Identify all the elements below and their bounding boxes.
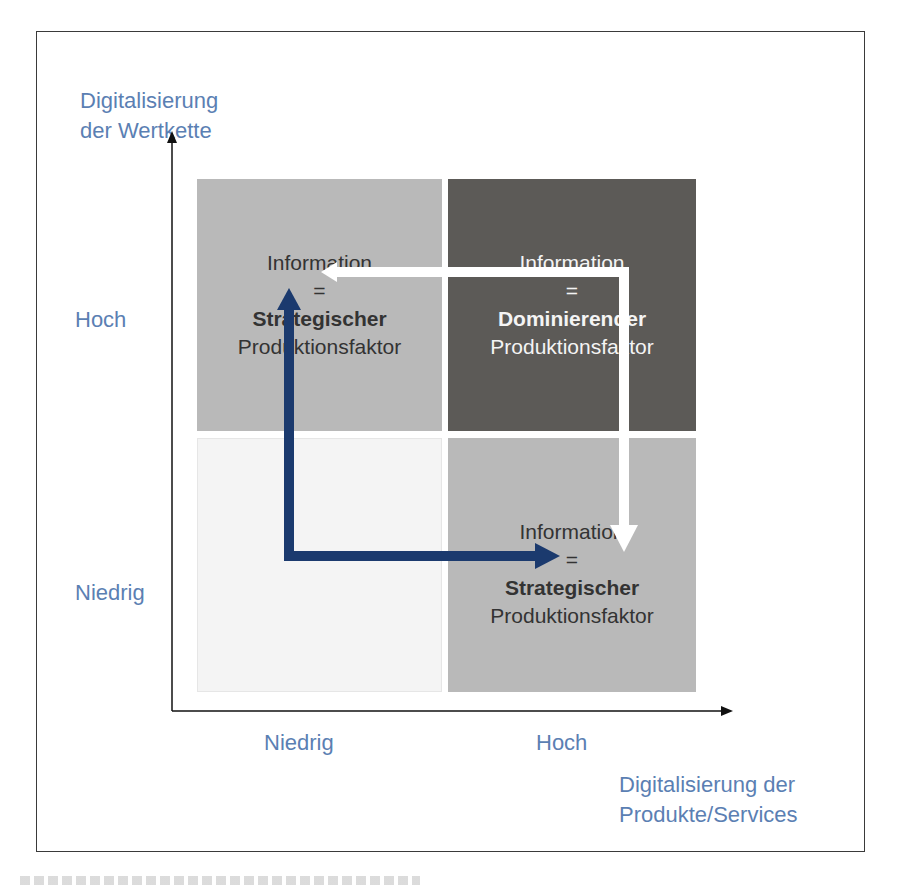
caption-clipped: [20, 876, 420, 885]
x-axis-arrowhead-icon: [721, 706, 733, 716]
x-axis: [172, 706, 733, 716]
white-arrowhead-down-icon: [610, 525, 638, 552]
navy-arrowhead-right-icon: [535, 543, 560, 569]
y-axis-arrowhead-icon: [167, 131, 177, 143]
white-arrowhead-left-icon: [321, 262, 337, 282]
navy-arrow-path: [277, 288, 560, 569]
arrows-overlay: [0, 0, 899, 885]
navy-arrowhead-up-icon: [277, 288, 301, 310]
white-arrow-path: [321, 262, 638, 552]
y-axis: [167, 131, 177, 711]
